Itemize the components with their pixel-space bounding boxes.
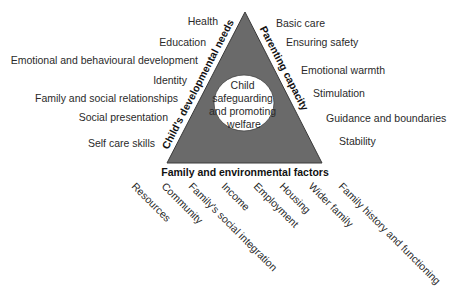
- left-item: Emotional and behavioural development: [11, 54, 198, 66]
- center-line: welfare: [226, 118, 261, 130]
- right-item: Stability: [339, 135, 377, 147]
- bottom-item: Income: [220, 180, 253, 213]
- right-item: Ensuring safety: [286, 36, 359, 48]
- right-item: Stimulation: [313, 87, 365, 99]
- right-item: Basic care: [276, 17, 325, 29]
- center-line: and promoting: [209, 105, 276, 117]
- right-item: Emotional warmth: [301, 64, 385, 76]
- bottom-item: Family history and functioning: [337, 180, 444, 287]
- left-item: Self care skills: [88, 137, 155, 149]
- left-item: Education: [159, 36, 206, 48]
- center-line: safeguarding: [212, 92, 273, 104]
- assessment-triangle-diagram: Child safeguarding and promoting welfare…: [0, 0, 470, 302]
- right-item: Guidance and boundaries: [326, 112, 446, 124]
- left-item: Health: [188, 15, 219, 27]
- left-item: Social presentation: [79, 111, 168, 123]
- left-item: Family and social relationships: [35, 92, 178, 104]
- center-line: Child: [231, 79, 255, 91]
- side-label-family-environmental-factors: Family and environmental factors: [161, 166, 329, 178]
- left-item: Identity: [153, 74, 188, 86]
